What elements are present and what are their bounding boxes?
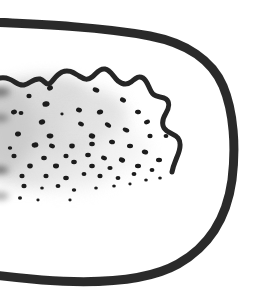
stipple-dot [132, 172, 137, 176]
stipple-dot [36, 199, 39, 202]
stipple-dot [107, 166, 112, 170]
stipple-dot [63, 154, 68, 158]
stipple-dot [18, 196, 22, 200]
stipple-dot [11, 154, 16, 158]
stipple-dot [27, 164, 33, 169]
shade-blob [92, 130, 148, 170]
stipple-dot [158, 176, 162, 179]
stipple-dot [43, 174, 48, 178]
stipple-dot [144, 178, 148, 181]
stipple-dot [19, 111, 24, 115]
stipple-dot [19, 174, 24, 178]
stipple-dot [89, 164, 95, 168]
stipple-dot [68, 199, 71, 202]
stipple-dot [135, 164, 141, 168]
stipple-dot [69, 144, 75, 149]
stipple-dot [128, 183, 131, 186]
stipple-dot [147, 134, 152, 138]
outline-top-tail-path [0, 19, 18, 23]
stipple-dot [40, 186, 44, 189]
stipple-dot [53, 164, 59, 169]
stipple-dot [21, 184, 26, 188]
stipple-dot [60, 113, 63, 116]
stipple-dot [56, 184, 61, 188]
stipple-dot [94, 186, 98, 189]
stipple-dot [150, 168, 155, 172]
scientific-line-drawing [0, 0, 260, 300]
stipple-dot [156, 158, 162, 162]
stipple-dot [26, 94, 31, 98]
stipple-dot [97, 174, 102, 178]
stipple-dot [41, 156, 47, 160]
stipple-dot [71, 160, 77, 164]
stipple-dot [85, 153, 91, 157]
stipple-dot [112, 184, 116, 187]
stipple-dot [63, 176, 69, 180]
stipple-dot [8, 146, 12, 150]
stipple-dot [82, 172, 87, 176]
figure-canvas [0, 0, 260, 300]
stipple-dot [164, 134, 169, 138]
stipple-dot [89, 142, 95, 146]
stipple-dot [116, 176, 121, 180]
stipple-dot [72, 188, 76, 192]
stipple-dot [127, 144, 133, 148]
